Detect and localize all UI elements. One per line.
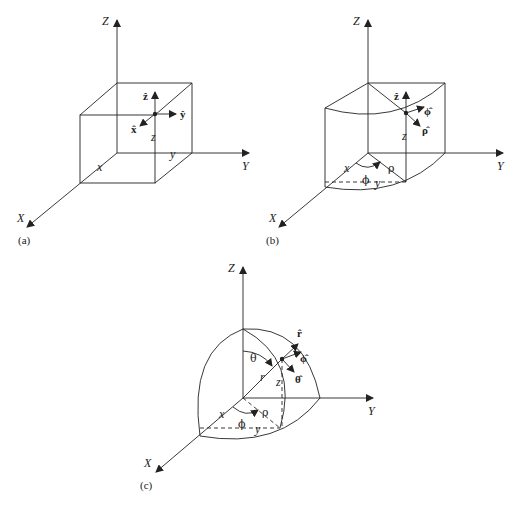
z-axis-label: Z [353,14,360,28]
x-hat-vector [140,114,155,126]
panel-a-caption: (a) [18,234,31,247]
rho-coord-label: ρ [262,406,268,419]
r-coord-label: r [260,370,265,384]
panel-b-caption: (b) [266,234,279,247]
theta-angle-arc [243,351,272,366]
x-axis-label: X [16,211,25,225]
theta-coord-label: θ [250,352,257,365]
z-coord-label: z [275,375,281,389]
y-axis-label: Y [497,159,505,173]
y-axis-label: Y [242,159,250,173]
rho-hat-label: ρ̂ [422,124,430,136]
phi-hat-label: ϕ̂ [424,105,433,117]
y-coord-label: y [254,422,261,436]
r-hat-label: r̂ [297,327,302,339]
panel-b-cylindrical: Z Y X x y z ρ ϕ ẑ ϕ̂ ρ̂ (b) [266,14,505,247]
x-coord-label: x [96,160,103,174]
z-hat-label: ẑ [394,90,399,102]
theta-hat-vector [282,359,294,372]
rho-hat-vector [406,113,420,126]
phi-hat-vector [282,352,301,359]
rho-coord-label: ρ [388,162,394,175]
phi-angle-arc [356,162,380,167]
coordinate-systems-figure: Z Y X x y z ẑ ŷ x̂ (a) Z [0,0,520,510]
phi-hat-vector [406,107,424,113]
phi-angle-arc [233,407,258,413]
z-hat-label: ẑ [143,90,148,102]
z-coord-label: z [401,129,407,143]
x-axis [27,153,117,227]
panel-a-cartesian: Z Y X x y z ẑ ŷ x̂ (a) [16,14,250,247]
y-coord-label: y [374,176,381,190]
panel-c-spherical: Z Y X x y z r ρ ϕ θ r̂ ϕ̂ θ̂ (c) [140,261,376,492]
x-coord-label: x [343,161,350,175]
x-axis-label: X [143,456,152,470]
z-coord-label: z [150,130,156,144]
panel-c-caption: (c) [140,479,153,492]
y-coord-label: y [169,147,176,161]
y-hat-label: ŷ [180,108,186,120]
theta-hat-label: θ̂ [295,373,303,385]
z-axis-label: Z [228,261,235,275]
phi-coord-label: ϕ [238,418,246,431]
x-hat-label: x̂ [131,123,137,135]
phi-coord-label: ϕ [362,174,370,187]
r-hat-vector [282,344,298,359]
x-axis-label: X [268,211,277,225]
y-axis-label: Y [368,404,376,418]
x-coord-label: x [218,407,225,421]
z-axis-label: Z [102,14,109,28]
